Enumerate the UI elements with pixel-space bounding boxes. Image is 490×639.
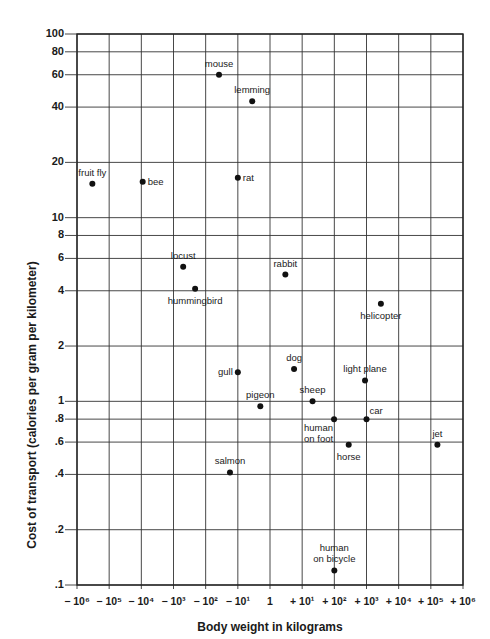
data-point-salmon: salmon <box>215 455 246 475</box>
data-point-horse: horse <box>337 442 361 462</box>
point-label: mouse <box>205 58 234 69</box>
y-tick-label: 60 <box>52 68 64 80</box>
point-label: horse <box>337 451 361 462</box>
point-marker <box>331 567 337 573</box>
data-point-human-on-bicycle: humanon bicycle <box>313 542 355 573</box>
chart: 100806040201086421.8.6.4.2.1 − 10⁶− 10⁵−… <box>0 0 490 639</box>
point-label: human <box>320 542 349 553</box>
data-point-locust: locust <box>171 250 196 270</box>
point-marker <box>434 442 440 448</box>
x-tick-label: + 10⁶ <box>450 595 476 607</box>
point-marker <box>282 272 288 278</box>
grid-lines <box>77 34 463 589</box>
x-tick-label: + 10⁴ <box>386 595 412 607</box>
point-marker <box>180 264 186 270</box>
x-tick-label: − 10¹ <box>226 595 251 607</box>
x-tick-label: − 10⁵ <box>96 595 122 607</box>
point-label: light plane <box>343 363 386 374</box>
point-label: car <box>370 405 383 416</box>
data-point-dog: dog <box>286 352 302 372</box>
y-tick-label: .8 <box>55 412 64 424</box>
point-label: locust <box>171 250 196 261</box>
y-axis-title: Cost of transport (calories per gram per… <box>25 261 39 548</box>
point-label: on bicycle <box>313 553 355 564</box>
point-label: helicopter <box>360 310 401 321</box>
data-point-jet: jet <box>431 428 442 448</box>
point-marker <box>235 369 241 375</box>
y-tick-label: 10 <box>52 211 64 223</box>
x-tick-label: − 10³ <box>161 595 186 607</box>
point-marker <box>362 377 368 383</box>
y-axis-ticks: 100806040201086421.8.6.4.2.1 <box>46 27 77 590</box>
point-label: jet <box>431 428 442 439</box>
data-point-fruit-fly: fruit fly <box>78 167 106 187</box>
data-point-human-on-foot: humanon foot <box>304 416 337 444</box>
y-tick-label: 20 <box>52 155 64 167</box>
y-tick-label: .4 <box>55 467 65 479</box>
x-tick-label: + 10⁵ <box>418 595 444 607</box>
point-label: dog <box>286 352 302 363</box>
y-tick-label: 4 <box>58 284 65 296</box>
point-label: salmon <box>215 455 246 466</box>
x-tick-label: 1 <box>267 595 273 607</box>
x-tick-label: + 10² <box>322 595 347 607</box>
x-tick-label: − 10⁶ <box>64 595 90 607</box>
point-label: pigeon <box>246 389 275 400</box>
point-label: human <box>304 422 333 433</box>
x-axis-title: Body weight in kilograms <box>197 620 343 634</box>
point-marker <box>291 366 297 372</box>
point-marker <box>140 179 146 185</box>
y-tick-label: .1 <box>55 578 64 590</box>
point-label: lemming <box>234 84 270 95</box>
point-marker <box>249 98 255 104</box>
data-points: mouselemmingfruit flybeeratlocusthumming… <box>78 58 442 574</box>
x-tick-label: + 10³ <box>354 595 379 607</box>
data-point-rabbit: rabbit <box>273 258 297 278</box>
data-point-hummingbird: hummingbird <box>168 286 223 306</box>
x-tick-label: − 10⁴ <box>128 595 154 607</box>
y-tick-label: 40 <box>52 100 64 112</box>
data-point-lemming: lemming <box>234 84 270 104</box>
point-label: gull <box>218 366 233 377</box>
x-tick-label: + 10¹ <box>290 595 315 607</box>
point-marker <box>235 175 241 181</box>
point-marker <box>346 442 352 448</box>
point-marker <box>216 72 222 78</box>
point-marker <box>192 286 198 292</box>
x-axis-ticks: − 10⁶− 10⁵− 10⁴− 10³− 10²− 10¹1+ 10¹+ 10… <box>64 595 476 607</box>
y-tick-label: .6 <box>55 435 64 447</box>
point-marker <box>378 301 384 307</box>
point-marker <box>257 403 263 409</box>
point-label: rabbit <box>273 258 297 269</box>
point-marker <box>89 181 95 187</box>
point-label: rat <box>243 172 254 183</box>
y-tick-label: 1 <box>58 394 64 406</box>
point-marker <box>364 416 370 422</box>
y-tick-label: 100 <box>46 27 64 39</box>
data-point-bee: bee <box>140 176 164 187</box>
point-label: hummingbird <box>168 295 223 306</box>
point-label: sheep <box>300 384 326 395</box>
point-label: on foot <box>304 433 333 444</box>
point-label: bee <box>148 176 164 187</box>
y-tick-label: .2 <box>55 523 64 535</box>
point-marker <box>227 469 233 475</box>
data-point-light-plane: light plane <box>343 363 386 383</box>
x-tick-label: − 10² <box>194 595 219 607</box>
y-tick-label: 80 <box>52 45 64 57</box>
y-tick-label: 2 <box>58 339 64 351</box>
y-tick-label: 8 <box>58 228 64 240</box>
y-tick-label: 6 <box>58 251 64 263</box>
point-marker <box>310 398 316 404</box>
point-label: fruit fly <box>78 167 106 178</box>
